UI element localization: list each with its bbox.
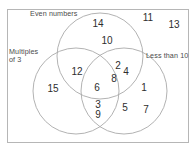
venn-member-12: 12 bbox=[71, 67, 82, 77]
venn-diagram: Even numbers Multiples of 3 Less than 10… bbox=[0, 0, 194, 151]
venn-member-7: 7 bbox=[143, 105, 149, 115]
universal-set-frame bbox=[8, 10, 189, 143]
set-label-multiples-of-3: Multiples of 3 bbox=[9, 48, 38, 65]
set-label-even-numbers: Even numbers bbox=[30, 10, 78, 18]
venn-member-11: 11 bbox=[143, 13, 153, 23]
venn-member-10: 10 bbox=[101, 36, 112, 46]
set-label-less-than-10: Less than 10 bbox=[146, 52, 188, 60]
circle-multiples-of-3 bbox=[33, 48, 119, 134]
venn-member-9: 9 bbox=[95, 110, 101, 120]
venn-member-8: 8 bbox=[111, 74, 117, 84]
venn-member-4: 4 bbox=[123, 67, 129, 77]
venn-member-13: 13 bbox=[168, 20, 179, 30]
venn-member-6: 6 bbox=[94, 83, 100, 93]
venn-member-5: 5 bbox=[122, 103, 128, 113]
venn-member-2: 2 bbox=[115, 61, 121, 71]
venn-member-14: 14 bbox=[92, 19, 103, 29]
venn-member-15: 15 bbox=[47, 84, 58, 94]
venn-member-1: 1 bbox=[141, 83, 147, 93]
